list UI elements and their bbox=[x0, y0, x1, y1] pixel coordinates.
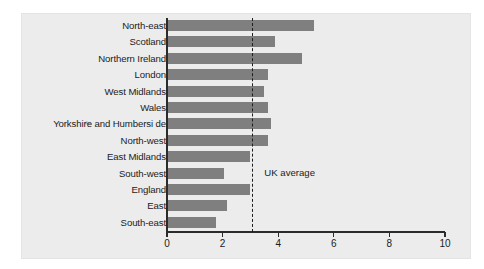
category-label: North-west bbox=[121, 133, 166, 148]
x-axis-tick-label: 2 bbox=[203, 238, 243, 249]
category-label: Wales bbox=[140, 100, 166, 115]
category-label: West Midlands bbox=[105, 84, 166, 99]
bar-row: ✁Yorkshire and Humbersi de bbox=[0, 116, 484, 131]
bar-row: Wales bbox=[0, 100, 484, 115]
x-axis-line bbox=[166, 231, 445, 233]
category-label: England bbox=[131, 182, 166, 197]
category-label: East Midlands bbox=[107, 149, 166, 164]
uk-average-label: UK average bbox=[264, 167, 315, 178]
category-label: Northern Ireland bbox=[98, 51, 166, 66]
bar-row: England bbox=[0, 182, 484, 197]
x-axis-tick bbox=[444, 232, 445, 237]
x-axis-tick-label: 4 bbox=[258, 238, 298, 249]
category-label: Yorkshire and Humbersi de bbox=[53, 116, 166, 131]
category-label: East bbox=[147, 198, 166, 213]
bar bbox=[167, 151, 250, 162]
bar bbox=[167, 20, 314, 31]
x-axis-tick bbox=[166, 232, 167, 237]
bar-row: London bbox=[0, 67, 484, 82]
bar bbox=[167, 217, 216, 228]
category-label: Scotland bbox=[129, 34, 166, 49]
category-label: North-east bbox=[122, 18, 166, 33]
bar bbox=[167, 86, 264, 97]
bar-chart: North-eastScotlandNorthern IrelandLondon… bbox=[0, 0, 484, 269]
x-axis-tick-label: 8 bbox=[369, 238, 409, 249]
category-label: London bbox=[135, 67, 166, 82]
x-axis-tick bbox=[389, 232, 390, 237]
uk-average-reference-line bbox=[252, 18, 253, 232]
bar-row: Scotland bbox=[0, 34, 484, 49]
category-label: South-west bbox=[119, 166, 166, 181]
x-axis-tick bbox=[222, 232, 223, 237]
bar-row: West Midlands bbox=[0, 84, 484, 99]
bar bbox=[167, 118, 271, 129]
figure: North-eastScotlandNorthern IrelandLondon… bbox=[0, 0, 484, 269]
bar bbox=[167, 36, 275, 47]
x-axis-tick bbox=[333, 232, 334, 237]
x-axis-tick-label: 6 bbox=[314, 238, 354, 249]
y-axis-line bbox=[166, 18, 168, 232]
bar-row: East Midlands bbox=[0, 149, 484, 164]
bar bbox=[167, 168, 224, 179]
x-axis-tick-label: 0 bbox=[147, 238, 187, 249]
bar-row: North-west bbox=[0, 133, 484, 148]
bar-row: Northern Ireland bbox=[0, 51, 484, 66]
bar bbox=[167, 200, 227, 211]
bar bbox=[167, 184, 250, 195]
bar-row: East bbox=[0, 198, 484, 213]
bar-row: South-east bbox=[0, 215, 484, 230]
bar-row: North-east bbox=[0, 18, 484, 33]
category-label: South-east bbox=[121, 215, 166, 230]
x-axis-tick bbox=[278, 232, 279, 237]
bar bbox=[167, 53, 302, 64]
bar-row: South-west bbox=[0, 166, 484, 181]
x-axis-tick-label: 10 bbox=[425, 238, 465, 249]
